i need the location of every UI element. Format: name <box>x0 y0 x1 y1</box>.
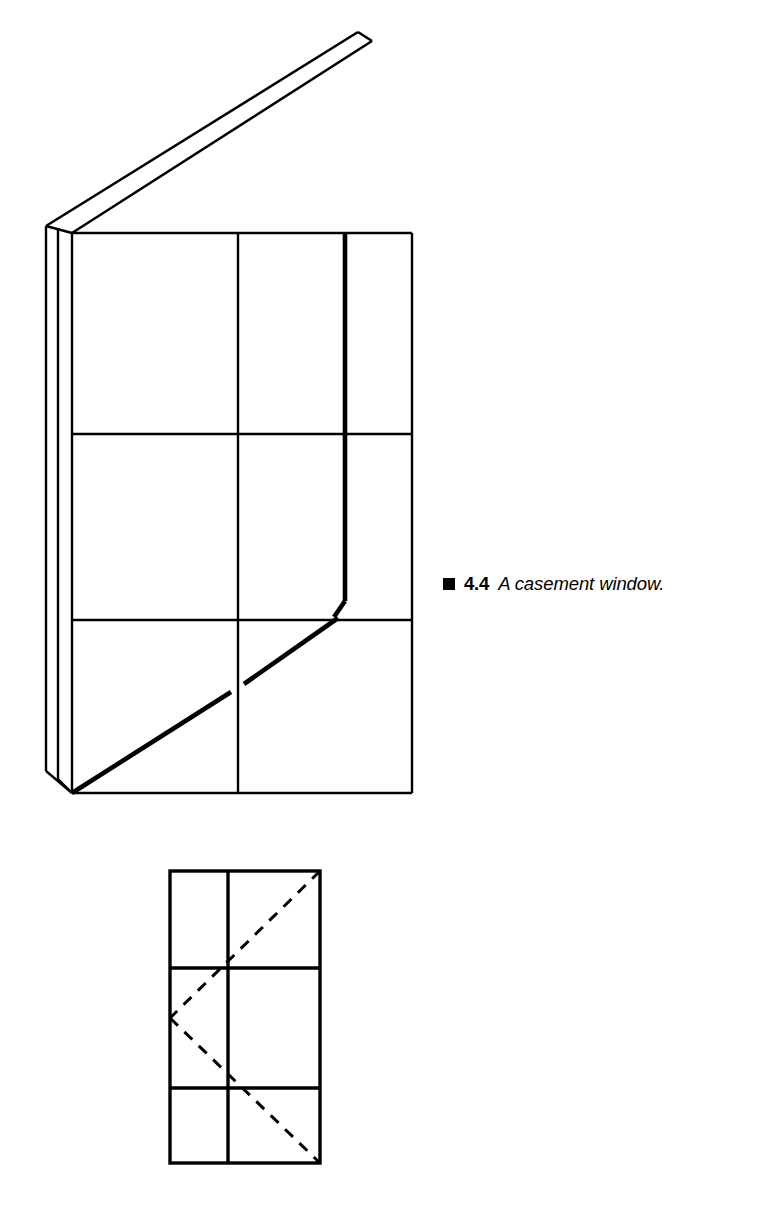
sash-fold-line-left-segment <box>72 692 231 793</box>
elevation-frame-outline <box>170 871 320 1163</box>
figure-number: 4.4 <box>464 573 489 595</box>
sash-slab-apex-cap <box>358 32 372 41</box>
elevation-casement-window-drawing <box>150 850 350 1190</box>
elevation-swing-line-lower <box>170 1018 320 1163</box>
sash-slab-bottom-near-edge <box>72 41 372 233</box>
axonometric-casement-window-drawing <box>0 0 440 820</box>
sash-fold-line-right-segment <box>244 618 338 684</box>
figure-caption: 4.4 A casement window. <box>443 573 763 595</box>
figure-page: 4.4 A casement window. <box>0 0 783 1209</box>
elevation-swing-line-upper <box>170 871 320 1018</box>
sash-slab-top-far-edge <box>46 32 358 226</box>
sash-free-edge-jog <box>334 601 345 617</box>
filled-square-bullet-icon <box>443 578 455 590</box>
figure-caption-text: A casement window. <box>498 573 664 595</box>
jamb-mid-fold-edge <box>58 230 72 793</box>
